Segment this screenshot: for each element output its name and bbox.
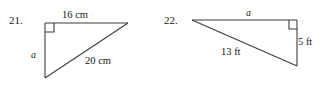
triangle-22-leg-label: 5 ft [298,36,312,47]
geometry-figure-sheet: 21. 16 cm a 20 cm 22. a 13 [0,0,324,88]
triangle-22-hypotenuse [192,20,297,66]
problem-22: 22. a 13 ft 5 ft [162,0,324,88]
triangle-22-right-angle-marker [289,20,297,29]
triangle-21-right-angle-marker [45,23,54,32]
triangle-21-top-label: 16 cm [62,9,88,20]
triangle-22-top-label: a [246,7,251,18]
triangle-22-hypotenuse-label: 13 ft [221,46,241,57]
problem-21: 21. 16 cm a 20 cm [0,0,162,88]
triangle-21-hypotenuse [45,23,128,78]
triangle-21-leg-label: a [31,49,36,60]
triangle-21-hypotenuse-label: 20 cm [85,55,111,66]
